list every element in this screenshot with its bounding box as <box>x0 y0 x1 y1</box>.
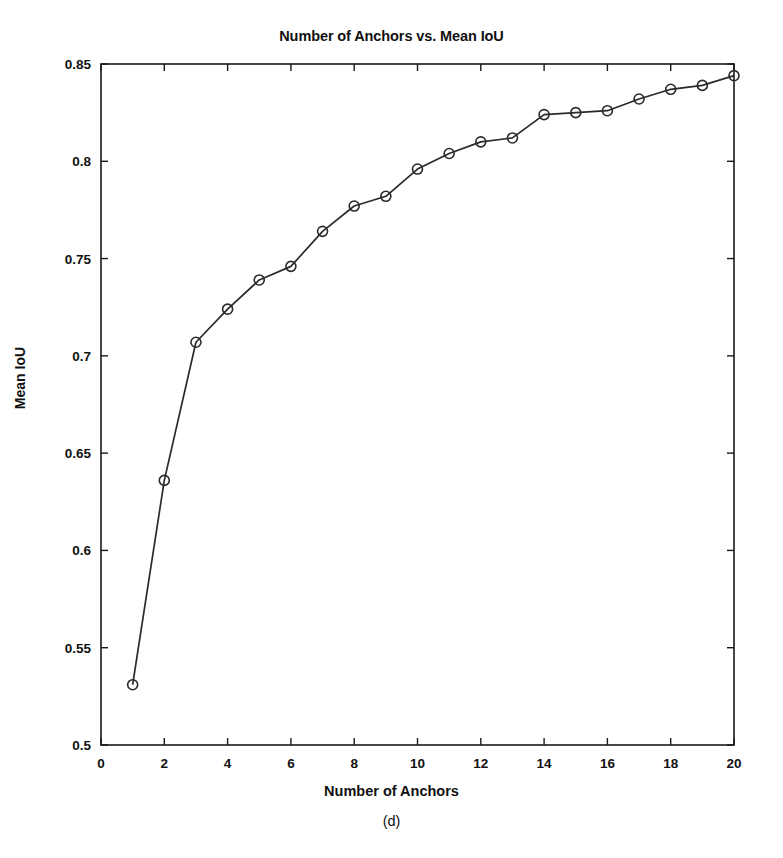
x-tick-label: 10 <box>410 756 425 771</box>
x-tick-label: 0 <box>97 756 105 771</box>
x-tick-label: 12 <box>473 756 488 771</box>
x-tick-label: 4 <box>224 756 232 771</box>
chart-plot-area: 024681012141618200.50.550.60.650.70.750.… <box>0 0 783 858</box>
y-tick-label: 0.5 <box>72 738 91 753</box>
x-axis-label: Number of Anchors <box>0 783 783 799</box>
figure-container: Number of Anchors vs. Mean IoU 024681012… <box>0 0 783 858</box>
x-tick-label: 18 <box>663 756 679 771</box>
y-tick-label: 0.7 <box>72 349 91 364</box>
y-tick-label: 0.65 <box>65 446 92 461</box>
y-axis-label: Mean IoU <box>12 298 28 458</box>
series-line-mean-iou <box>133 76 734 685</box>
axis-box <box>101 64 734 745</box>
x-tick-label: 14 <box>537 756 553 771</box>
x-tick-label: 2 <box>161 756 169 771</box>
x-tick-label: 6 <box>287 756 295 771</box>
y-tick-label: 0.55 <box>65 641 92 656</box>
y-tick-label: 0.8 <box>72 154 91 169</box>
y-tick-label: 0.6 <box>72 543 91 558</box>
x-tick-label: 16 <box>600 756 616 771</box>
y-tick-label: 0.85 <box>65 57 92 72</box>
y-tick-label: 0.75 <box>65 252 92 267</box>
figure-subcaption: (d) <box>0 813 783 829</box>
x-tick-label: 20 <box>726 756 741 771</box>
x-tick-label: 8 <box>350 756 358 771</box>
